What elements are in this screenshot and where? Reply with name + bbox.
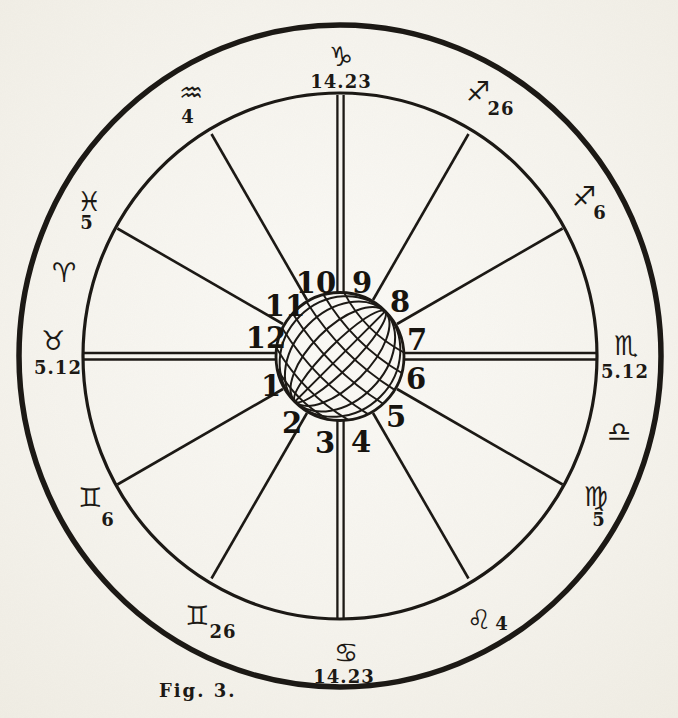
- eleventh-degree: 4: [181, 106, 195, 127]
- capricorn-glyph: ♑: [329, 41, 353, 72]
- house-number-1: 1: [261, 369, 281, 403]
- house-number-6: 6: [406, 362, 426, 396]
- midheaven-degree: 14.23: [310, 71, 371, 92]
- gemini-glyph: ♊: [78, 482, 102, 513]
- intercepted-libra-label: ♎: [607, 416, 631, 447]
- house-number-12: 12: [246, 321, 286, 355]
- ascendant-degree: 5.12: [34, 357, 82, 378]
- book-page: 1 2 3 4 5 6 7 8 9 10 11 12 ♑ 14.23 ♒ 4 ♓…: [0, 0, 678, 718]
- house-number-9: 9: [352, 266, 372, 300]
- house-number-7: 7: [407, 323, 427, 357]
- cancer-glyph: ♋: [334, 637, 358, 668]
- imum-coeli-degree: 14.23: [313, 666, 374, 687]
- eighth-degree: 6: [593, 202, 607, 223]
- scorpio-glyph: ♏: [614, 330, 638, 361]
- horoscope-figure: 1 2 3 4 5 6 7 8 9 10 11 12 ♑ 14.23 ♒ 4 ♓…: [0, 0, 678, 718]
- virgo-glyph: ♍: [584, 481, 608, 512]
- sagittarius-glyph: ♐: [466, 76, 490, 107]
- gemini-glyph: ♊: [185, 600, 209, 631]
- aquarius-glyph: ♒: [179, 77, 203, 108]
- third-degree: 26: [209, 621, 236, 642]
- house-number-11: 11: [265, 289, 305, 323]
- taurus-glyph: ♉: [41, 325, 65, 356]
- ninth-degree: 26: [487, 98, 514, 119]
- house-number-3: 3: [315, 426, 335, 460]
- house-number-8: 8: [390, 285, 410, 319]
- house-number-2: 2: [282, 406, 302, 440]
- twelfth-degree: 5: [80, 212, 94, 233]
- fifth-degree: 4: [495, 613, 509, 634]
- figure-caption: Fig. 3.: [159, 680, 237, 701]
- house-number-4: 4: [351, 425, 371, 459]
- second-degree: 6: [101, 509, 115, 530]
- descendant-degree: 5.12: [601, 361, 649, 382]
- aries-glyph: ♈: [52, 257, 76, 288]
- intercepted-aries-label: ♈: [52, 257, 76, 288]
- sixth-degree: 5: [592, 509, 606, 530]
- leo-glyph: ♌: [467, 604, 491, 635]
- house-number-5: 5: [386, 400, 406, 434]
- libra-glyph: ♎: [607, 416, 631, 447]
